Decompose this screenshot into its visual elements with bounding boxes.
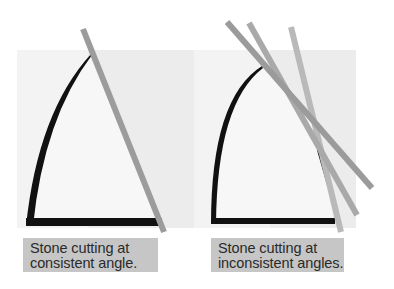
caption-line-2: inconsistent angles. [218, 256, 339, 271]
panel-inconsistent [194, 22, 372, 232]
stone-bottom-edge [211, 218, 335, 224]
caption-consistent: Stone cutting at consistent angle. [23, 238, 158, 272]
caption-line-2: consistent angle. [30, 256, 153, 271]
stone-bottom-edge [26, 218, 162, 226]
caption-inconsistent: Stone cutting at inconsistent angles. [211, 238, 344, 272]
caption-line-1: Stone cutting at [30, 241, 153, 256]
caption-line-1: Stone cutting at [218, 241, 339, 256]
panel-consistent [17, 29, 198, 232]
